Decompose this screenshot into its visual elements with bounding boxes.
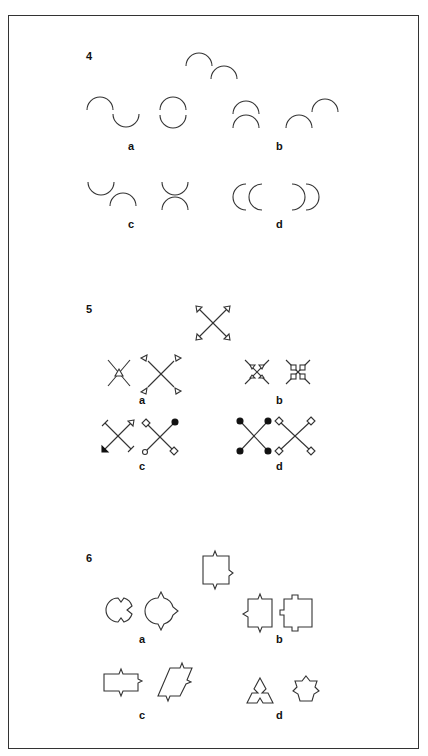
problem-4-option-b-figure-2 bbox=[284, 98, 344, 132]
problem-5-option-c-figure-2 bbox=[141, 418, 179, 456]
problem-4-option-c-figure-2 bbox=[160, 180, 190, 212]
problem-6-option-d-figure-2 bbox=[291, 674, 321, 704]
problem-4-option-a-label[interactable]: a bbox=[128, 140, 134, 152]
problem-5-option-c-label[interactable]: c bbox=[139, 460, 145, 472]
problem-number-4: 4 bbox=[86, 50, 92, 62]
problem-6-option-b-figure-1 bbox=[240, 593, 276, 633]
problem-6-option-a-figure-2 bbox=[146, 590, 180, 632]
problem-5-option-d-label[interactable]: d bbox=[276, 460, 283, 472]
problem-number-6: 6 bbox=[86, 552, 92, 564]
puzzle-frame bbox=[8, 15, 419, 749]
problem-6-option-b-label[interactable]: b bbox=[276, 633, 283, 645]
problem-6-stem-figure bbox=[201, 550, 237, 590]
problem-4-option-a-figure-1 bbox=[85, 96, 141, 136]
problem-5-option-b-figure-1 bbox=[244, 359, 270, 385]
problem-5-option-b-label[interactable]: b bbox=[276, 394, 283, 406]
problem-4-option-b-figure-1 bbox=[231, 100, 261, 132]
problem-4-stem-figure bbox=[184, 52, 244, 82]
problem-5-option-d-figure-2 bbox=[274, 416, 316, 456]
problem-5-stem-figure bbox=[195, 305, 231, 341]
problem-5-option-a-label[interactable]: a bbox=[139, 394, 145, 406]
problem-4-option-d-figure-1 bbox=[234, 182, 274, 212]
problem-6-option-d-label[interactable]: d bbox=[276, 709, 283, 721]
problem-4-option-a-figure-2 bbox=[158, 96, 188, 132]
problem-6-option-c-figure-2 bbox=[156, 662, 196, 706]
problem-5-option-a-figure-1 bbox=[106, 358, 132, 388]
problem-6-option-c-label[interactable]: c bbox=[139, 709, 145, 721]
problem-5-option-a-figure-2 bbox=[140, 353, 182, 395]
problem-5-option-c-figure-1 bbox=[100, 418, 136, 454]
problem-4-option-b-label[interactable]: b bbox=[276, 140, 283, 152]
problem-6-option-a-label[interactable]: a bbox=[139, 633, 145, 645]
problem-number-5: 5 bbox=[86, 303, 92, 315]
problem-4-option-d-label[interactable]: d bbox=[276, 218, 283, 230]
problem-6-option-d-figure-1 bbox=[245, 677, 275, 705]
problem-4-option-c-figure-1 bbox=[86, 180, 142, 210]
problem-6-option-b-figure-2 bbox=[276, 593, 316, 633]
problem-6-option-c-figure-1 bbox=[102, 666, 152, 700]
problem-4-option-c-label[interactable]: c bbox=[128, 218, 134, 230]
problem-5-option-b-figure-2 bbox=[285, 359, 311, 385]
problem-5-option-d-figure-1 bbox=[236, 417, 272, 455]
problem-6-option-a-figure-1 bbox=[107, 595, 137, 625]
problem-4-option-d-figure-2 bbox=[290, 182, 330, 212]
